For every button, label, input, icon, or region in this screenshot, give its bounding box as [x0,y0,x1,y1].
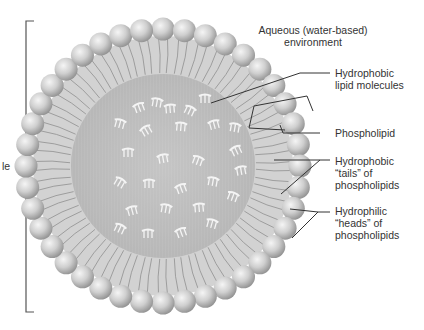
phospholipid-head [152,292,175,315]
label-line: Aqueous (water-based) [243,24,383,36]
label-line: Hydrophobic [335,67,404,79]
label-line: phospholipids [335,229,399,241]
phospholipid-head [173,290,196,313]
phospholipid-head [194,24,217,47]
phospholipid-head [16,176,39,199]
label-aqueous-environment: Aqueous (water-based) environment [243,24,383,48]
label-line: le [2,160,10,172]
label-hydrophilic-heads: Hydrophilic “heads” of phospholipids [335,205,399,241]
phospholipid-head [130,19,153,42]
label-left-partial: le [2,160,10,172]
label-line: Hydrophobic [335,155,399,167]
phospholipid-head [282,112,305,135]
lipid-molecule [143,180,155,189]
phospholipid-head [194,285,217,308]
phospholipid-head [15,155,38,178]
phospholipid-head [287,133,310,156]
phospholipid-head [109,24,132,47]
phospholipid-head [282,197,305,220]
phospholipid-head [289,155,312,178]
phospholipid-head [274,92,297,115]
label-hydrophobic-tails: Hydrophobic “tails” of phospholipids [335,155,399,191]
phospholipid-head [21,112,44,135]
label-line: “tails” of [335,167,399,179]
phospholipid-head [130,290,153,313]
lipid-molecule [199,95,211,104]
label-line: “heads” of [335,217,399,229]
label-phospholipid: Phospholipid [335,127,395,139]
label-line: environment [243,36,383,48]
label-line: Phospholipid [335,127,395,139]
lipid-molecule [142,230,154,239]
label-line: lipid molecules [335,79,404,91]
phospholipid-head [16,133,39,156]
phospholipid-head [214,277,237,300]
label-line: Hydrophilic [335,205,399,217]
phospholipid-head [152,18,175,41]
lipid-molecule [122,149,134,158]
phospholipid-head [21,197,44,220]
phospholipid-head [173,19,196,42]
phospholipid-head [89,32,112,55]
phospholipid-head [29,217,52,240]
label-line: phospholipids [335,179,399,191]
label-hydrophobic-lipid-molecules: Hydrophobic lipid molecules [335,67,404,91]
phospholipid-head [109,285,132,308]
